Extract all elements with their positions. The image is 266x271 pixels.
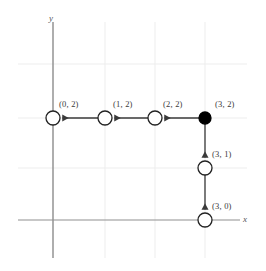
node-label-3-2: (3, 2) (215, 100, 235, 109)
nodes-group (46, 111, 212, 227)
node-label-3-0: (3, 0) (212, 202, 232, 211)
node-3-1[interactable] (198, 161, 212, 175)
x-axis-label: x (243, 215, 247, 224)
diagram-canvas: (0, 2) (1, 2) (2, 2) (3, 2) (3, 1) (3, 0… (0, 0, 266, 271)
coordinate-graph-svg (0, 0, 266, 271)
node-label-2-2: (2, 2) (163, 100, 183, 109)
node-label-1-2: (1, 2) (113, 100, 133, 109)
y-axis-label: y (49, 14, 53, 23)
node-label-3-1: (3, 1) (212, 150, 232, 159)
node-0-2[interactable] (46, 111, 60, 125)
node-1-2[interactable] (98, 111, 112, 125)
node-2-2[interactable] (148, 111, 162, 125)
node-3-0[interactable] (198, 213, 212, 227)
node-3-2[interactable] (199, 112, 211, 124)
node-label-0-2: (0, 2) (59, 100, 79, 109)
edges-group (63, 118, 206, 210)
